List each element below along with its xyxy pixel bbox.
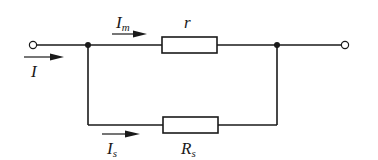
label-shunt-resistance: Rs xyxy=(181,140,196,157)
label-shunt-current-main: I xyxy=(107,139,113,158)
resistor-r xyxy=(162,37,217,53)
label-meter-current: Im xyxy=(116,14,130,31)
left-terminal xyxy=(29,41,36,48)
arrow-total-current-icon xyxy=(24,54,64,61)
arrow-shunt-current-icon xyxy=(102,131,140,138)
label-shunt-resistance-main: R xyxy=(181,139,191,158)
label-shunt-current-sub: s xyxy=(113,147,117,159)
label-meter-resistance-main: r xyxy=(184,13,191,32)
resistor-rs xyxy=(163,117,218,133)
circuit-diagram: I Im r Is Rs xyxy=(0,0,378,160)
label-meter-resistance: r xyxy=(184,14,191,31)
label-total-current-main: I xyxy=(31,62,37,81)
left-junction-dot xyxy=(85,42,91,48)
label-meter-current-main: I xyxy=(116,13,122,32)
label-shunt-resistance-sub: s xyxy=(191,147,195,159)
label-meter-current-sub: m xyxy=(122,21,130,33)
right-terminal xyxy=(341,41,348,48)
label-shunt-current: Is xyxy=(107,140,117,157)
label-total-current: I xyxy=(31,63,37,80)
right-junction-dot xyxy=(274,42,280,48)
